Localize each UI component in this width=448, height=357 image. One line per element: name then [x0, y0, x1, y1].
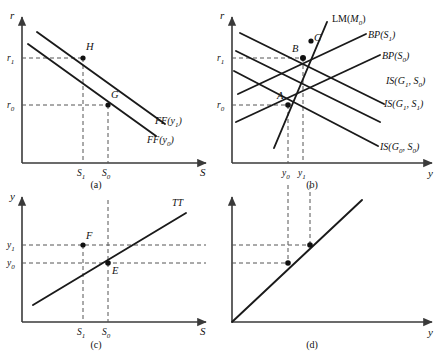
panel-b-point-B-label: B: [292, 43, 299, 54]
panel-a-curve-ff-y1: [37, 32, 165, 124]
panel-c-tick-S0: S0: [102, 327, 111, 340]
panel-a-point-H-label: H: [85, 41, 95, 52]
economics-four-panel-figure: r S r1 r0 S1 S0 H G FF(y1) FF(y0) (a): [0, 0, 448, 357]
panel-c: y S y1 y0 S1 S0 F E TT (c): [6, 190, 206, 351]
panel-a-y-axis-label: r: [10, 9, 15, 21]
panel-b-label-bp-s0: BP(S0): [382, 50, 410, 64]
panel-c-x-axis-label: S: [200, 325, 206, 337]
panel-a-point-G-dot: [105, 102, 110, 107]
panel-c-point-E-label: E: [111, 265, 119, 276]
panel-c-point-F-label: F: [85, 230, 93, 241]
panel-b: r y r1 r0 y0 y1 A B C LM(M0) BP(S1) BP(S…: [217, 9, 433, 191]
panel-c-point-F-dot: [80, 242, 85, 247]
panel-c-tick-y1: y1: [6, 240, 15, 253]
panel-c-point-E-dot: [105, 260, 111, 266]
panel-b-label-lm-m0: LM(M0): [332, 13, 366, 27]
panel-d-caption: (d): [306, 339, 318, 351]
panel-b-label-bp-s1: BP(S1): [368, 29, 396, 43]
panel-a-label-ff-y1: FF(y1): [154, 115, 183, 129]
panel-a-tick-S1: S1: [77, 168, 85, 181]
panel-c-tick-y0: y0: [6, 258, 15, 271]
panel-a-x-axis-label: S: [200, 166, 206, 178]
panel-b-label-is-g1s1: IS(G1, S1): [383, 98, 424, 112]
panel-d-curve-45-degree: [232, 200, 362, 322]
panel-b-point-A-label: A: [276, 90, 284, 101]
panel-b-tick-r1: r1: [217, 53, 224, 66]
panel-d-point-y0-dot: [285, 260, 291, 266]
panel-a-tick-S0: S0: [102, 168, 111, 181]
panel-d-point-y1-dot: [307, 242, 313, 248]
panel-c-y-axis-label: y: [9, 190, 15, 202]
panel-c-label-tt: TT: [172, 197, 185, 208]
panel-a: r S r1 r0 S1 S0 H G FF(y1) FF(y0) (a): [7, 9, 206, 191]
panel-b-label-is-g1s0: IS(G1, S0): [385, 75, 426, 89]
panel-b-point-C-label: C: [314, 32, 322, 43]
panel-c-curve-tt: [33, 213, 186, 305]
panel-b-curve-is-g1s0: [240, 33, 384, 104]
panel-b-x-axis-label: y: [427, 167, 433, 179]
panel-a-point-H-dot: [80, 55, 85, 60]
panel-b-point-A-dot: [285, 102, 291, 108]
panel-a-curve-ff-y0: [28, 44, 156, 136]
panel-a-caption: (a): [90, 179, 101, 191]
panel-b-curve-is-g0s0: [234, 71, 378, 146]
panel-c-caption: (c): [90, 339, 101, 351]
panel-a-point-G-label: G: [111, 89, 119, 100]
panel-c-tick-S1: S1: [77, 327, 85, 340]
panel-b-point-B-dot: [300, 55, 306, 61]
panel-b-tick-y0: y0: [281, 168, 290, 181]
panel-b-tick-r0: r0: [217, 100, 225, 113]
panel-d-x-axis-label: y: [427, 326, 433, 338]
panel-a-tick-r0: r0: [7, 100, 15, 113]
panel-a-tick-r1: r1: [7, 53, 14, 66]
panel-b-point-C-dot: [308, 38, 313, 43]
panel-b-y-axis-label: r: [220, 9, 225, 21]
panel-b-tick-y1: y1: [297, 168, 306, 181]
panel-d: y (d): [232, 185, 433, 351]
panel-b-label-is-g0s0: IS(G0, S0): [379, 141, 420, 155]
panel-a-label-ff-y0: FF(y0): [146, 134, 175, 148]
panel-b-caption: (b): [306, 179, 318, 191]
